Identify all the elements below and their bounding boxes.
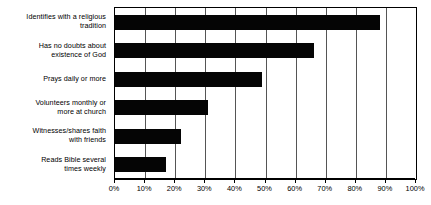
bar bbox=[115, 72, 262, 87]
x-tick-mark bbox=[415, 179, 416, 183]
x-tick-mark bbox=[295, 179, 296, 183]
bar-series bbox=[115, 8, 416, 179]
bar bbox=[115, 15, 380, 30]
category-label: Reads Bible severaltimes weekly bbox=[0, 155, 106, 173]
bar bbox=[115, 43, 314, 58]
category-label-line: times weekly bbox=[0, 164, 106, 173]
x-tick-mark bbox=[355, 179, 356, 183]
x-tick-mark bbox=[325, 179, 326, 183]
bar bbox=[115, 129, 181, 144]
x-tick-mark bbox=[144, 179, 145, 183]
category-axis-labels: Identifies with a religioustraditionHas … bbox=[0, 7, 110, 178]
category-label-line: Witnesses/shares faith bbox=[0, 126, 106, 135]
x-tick-mark bbox=[385, 179, 386, 183]
bar-chart: Identifies with a religioustraditionHas … bbox=[0, 0, 431, 205]
x-tick-label: 100% bbox=[395, 184, 431, 193]
category-label-line: Has no doubts about bbox=[0, 41, 106, 50]
x-tick-mark bbox=[114, 179, 115, 183]
x-tick-mark bbox=[234, 179, 235, 183]
category-label-line: Volunteers monthly or bbox=[0, 98, 106, 107]
bar bbox=[115, 100, 208, 115]
category-label: Identifies with a religioustradition bbox=[0, 12, 106, 30]
category-label-line: more at church bbox=[0, 107, 106, 116]
category-label: Has no doubts aboutexistence of God bbox=[0, 41, 106, 59]
category-label: Volunteers monthly ormore at church bbox=[0, 98, 106, 116]
x-tick-mark bbox=[174, 179, 175, 183]
x-tick-mark bbox=[265, 179, 266, 183]
category-label-line: Identifies with a religious bbox=[0, 12, 106, 21]
x-tick-mark bbox=[204, 179, 205, 183]
category-label-line: existence of God bbox=[0, 50, 106, 59]
category-label-line: tradition bbox=[0, 21, 106, 30]
x-axis: 0%10%20%30%40%50%60%70%80%90%100% bbox=[114, 178, 415, 205]
category-label-line: Prays daily or more bbox=[0, 74, 106, 83]
plot-area bbox=[114, 7, 417, 180]
category-label: Witnesses/shares faithwith friends bbox=[0, 126, 106, 144]
category-label: Prays daily or more bbox=[0, 74, 106, 83]
category-label-line: with friends bbox=[0, 135, 106, 144]
category-label-line: Reads Bible several bbox=[0, 155, 106, 164]
bar bbox=[115, 157, 166, 172]
